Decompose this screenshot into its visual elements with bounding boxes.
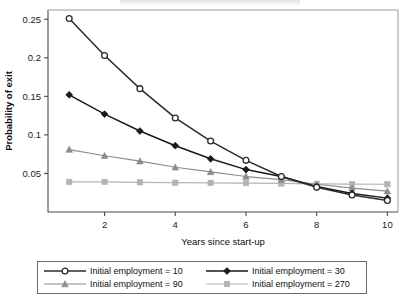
legend-item-label: Initial employment = 90	[90, 279, 183, 289]
marker-filled-diamond	[137, 128, 144, 135]
x-tick-label: 4	[173, 219, 178, 230]
marker-filled-square	[385, 182, 390, 187]
marker-filled-square	[137, 180, 142, 185]
marker-open-circle	[314, 184, 320, 190]
series-0	[66, 16, 390, 204]
chart-plot-area: 0.050.10.150.20.25246810Probability of e…	[0, 0, 406, 258]
marker-filled-square	[173, 180, 178, 185]
marker-filled-square	[102, 179, 107, 184]
y-tick-label: 0.25	[23, 14, 42, 25]
legend-marker-filled-diamond-icon	[205, 265, 249, 277]
marker-filled-square	[67, 179, 72, 184]
marker-open-circle	[137, 86, 143, 92]
marker-filled-diamond	[224, 267, 231, 274]
marker-filled-diamond	[207, 155, 214, 162]
x-tick-label: 6	[243, 219, 248, 230]
marker-open-circle	[102, 53, 108, 59]
marker-filled-diamond	[66, 91, 73, 98]
series-line	[69, 182, 387, 184]
marker-filled-diamond	[243, 166, 250, 173]
marker-open-circle	[66, 16, 72, 22]
marker-filled-square	[224, 282, 229, 287]
legend-marker-open-circle-icon	[43, 265, 87, 277]
legend-item[interactable]: Initial employment = 30	[205, 264, 361, 278]
legend-item-label: Initial employment = 30	[252, 266, 345, 276]
series-line	[69, 18, 387, 200]
series-line	[69, 150, 387, 192]
marker-open-circle	[172, 115, 178, 121]
x-tick-label: 10	[382, 219, 393, 230]
series-1	[66, 91, 391, 201]
figure-container: 0.050.10.150.20.25246810Probability of e…	[0, 0, 406, 298]
x-tick-label: 2	[102, 219, 107, 230]
x-axis-title: Years since start-up	[181, 236, 265, 247]
y-tick-label: 0.05	[23, 168, 42, 179]
y-tick-label: 0.2	[28, 52, 41, 63]
scan-artifact	[120, 0, 300, 6]
marker-open-circle	[384, 198, 390, 204]
y-tick-label: 0.1	[28, 129, 41, 140]
y-axis-title: Probability of exit	[3, 70, 14, 151]
marker-filled-diamond	[172, 142, 179, 149]
x-tick-label: 8	[314, 219, 319, 230]
marker-filled-diamond	[101, 111, 108, 118]
marker-filled-square	[243, 180, 248, 185]
marker-filled-triangle	[66, 146, 73, 152]
legend-item-label: Initial employment = 10	[90, 266, 183, 276]
y-tick-label: 0.15	[23, 91, 42, 102]
legend-marker-filled-square-icon	[205, 278, 249, 290]
series-2	[66, 146, 391, 194]
marker-open-circle	[243, 157, 249, 163]
legend-item[interactable]: Initial employment = 270	[205, 278, 361, 292]
marker-filled-square	[208, 180, 213, 185]
legend-item[interactable]: Initial employment = 10	[43, 264, 199, 278]
marker-open-circle	[349, 192, 355, 198]
legend-item-label: Initial employment = 270	[252, 279, 350, 289]
marker-open-circle	[62, 268, 68, 274]
marker-open-circle	[208, 138, 214, 144]
legend-marker-filled-triangle-icon	[43, 278, 87, 290]
series-3	[67, 179, 391, 187]
chart-legend: Initial employment = 10Initial employmen…	[37, 261, 367, 294]
legend-item[interactable]: Initial employment = 90	[43, 278, 199, 292]
marker-open-circle	[278, 174, 284, 180]
